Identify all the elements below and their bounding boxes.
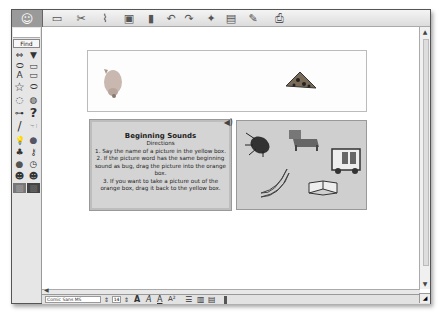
field-icon[interactable]: ▭ <box>27 70 40 80</box>
pig-picture[interactable] <box>100 65 126 99</box>
direction-step: 1. Say the name of a picture in the yell… <box>92 148 229 156</box>
paint-bucket-icon[interactable]: ▣ <box>120 11 138 25</box>
superscript-button[interactable]: A² <box>168 295 176 304</box>
question-icon[interactable]: ? <box>27 107 40 117</box>
connector-icon[interactable]: ⊶ <box>13 108 26 118</box>
directions-box[interactable]: ◀) Beginning Sounds Directions 1. Say th… <box>90 120 231 210</box>
directions-subtitle: Directions <box>92 140 229 148</box>
app-window: ☺ ▭ ✂ ⌇ ▣ ▮ ↶ ↷ ✦ ▤ ✎ ⎙ Find ⇔ ▼ ⬭ ▭ A ▭… <box>11 9 431 304</box>
photo-dark-icon[interactable]: ▩ <box>27 183 40 193</box>
scroll-down-icon[interactable]: ▼ <box>421 280 429 288</box>
vertical-scrollbar[interactable]: ▲ ▼ <box>419 27 430 289</box>
speech-bubble-icon[interactable]: ◌ <box>13 95 26 105</box>
hand-icon[interactable]: ☜ <box>27 121 40 131</box>
orange-box[interactable] <box>236 120 367 210</box>
yellow-box[interactable] <box>87 50 367 112</box>
photo-icon[interactable]: ▩ <box>13 183 26 193</box>
tool-palette: Find ⇔ ▼ ⬭ ▭ A ▭ ☆ ⬭ ◌ ◍ ⊶ ? / ☜ 💡 ● ♣ ⚷… <box>12 27 42 303</box>
toolbar: ☺ ▭ ✂ ⌇ ▣ ▮ ↶ ↷ ✦ ▤ ✎ ⎙ <box>12 10 430 27</box>
speaker-icon[interactable]: ◀) <box>224 118 233 127</box>
italic-button[interactable]: A <box>146 295 151 304</box>
undo-icon[interactable]: ↶ <box>162 11 180 25</box>
eraser-icon[interactable]: ▮ <box>142 11 160 25</box>
app-logo-icon[interactable]: ☺ <box>12 10 43 27</box>
cloud-icon[interactable]: ⬭ <box>27 82 40 92</box>
arrows-icon[interactable]: ⇔ <box>13 50 26 60</box>
page-canvas[interactable]: ◀) Beginning Sounds Directions 1. Say th… <box>42 27 420 289</box>
find-button[interactable]: Find <box>13 39 40 48</box>
pencil-tool-icon[interactable]: / <box>13 121 26 131</box>
tree-icon[interactable]: ♣ <box>13 147 26 157</box>
globe-icon[interactable]: ● <box>27 135 40 145</box>
scroll-left-icon[interactable]: ◀ <box>44 286 49 293</box>
boy-icon[interactable]: ☻ <box>13 171 26 181</box>
underline-button[interactable]: A <box>157 295 162 304</box>
bananas-picture[interactable] <box>257 165 293 201</box>
spacing-icon[interactable]: ▤ <box>208 295 216 304</box>
cut-icon[interactable]: ✂ <box>72 11 90 25</box>
book-picture[interactable] <box>307 179 339 197</box>
lightbulb-icon[interactable]: 💡 <box>13 135 26 145</box>
magnet-icon[interactable]: ⌇ <box>96 11 114 25</box>
resize-handle[interactable]: ◢ <box>419 293 430 303</box>
text-icon[interactable]: A <box>13 70 26 80</box>
redo-icon[interactable]: ↷ <box>180 11 198 25</box>
bug-icon[interactable]: ✦ <box>202 11 220 25</box>
bed-picture[interactable] <box>287 127 321 153</box>
size-stepper-icon[interactable]: ⇕ <box>123 295 130 304</box>
page-link-icon[interactable]: ▤ <box>222 11 240 25</box>
star-icon[interactable]: ☆ <box>13 82 26 92</box>
divider <box>224 296 227 304</box>
bug-picture[interactable] <box>243 127 275 159</box>
direction-step: 3. If you want to take a picture out of … <box>92 178 229 193</box>
print-icon[interactable]: ⎙ <box>270 11 288 25</box>
palette-header <box>13 28 40 38</box>
pizza-picture[interactable] <box>284 70 318 92</box>
align-icon[interactable]: ☰ <box>185 295 192 304</box>
dropdown-icon[interactable]: ▼ <box>27 50 40 60</box>
bus-picture[interactable] <box>329 146 363 176</box>
apple-icon[interactable]: ● <box>13 159 26 169</box>
font-stepper-icon[interactable]: ⇕ <box>103 295 110 304</box>
font-size-field[interactable]: 14 <box>112 296 121 303</box>
font-select[interactable]: Comic Sans MS <box>45 296 101 303</box>
columns-icon[interactable]: ▥ <box>197 295 205 304</box>
thought-bubble-icon[interactable]: ◍ <box>27 95 40 105</box>
direction-step: 2. If the picture word has the same begi… <box>92 155 229 178</box>
bold-button[interactable]: A <box>134 295 140 304</box>
key-icon[interactable]: ⚷ <box>27 147 40 157</box>
girl-icon[interactable]: ☻ <box>27 171 40 181</box>
clock-icon[interactable]: ◷ <box>27 159 40 169</box>
directions-title: Beginning Sounds <box>92 132 229 140</box>
pencil-icon[interactable]: ✎ <box>244 11 262 25</box>
scroll-up-icon[interactable]: ▲ <box>421 28 429 36</box>
format-bar: Comic Sans MS ⇕ 14 ⇕ A A A A² ☰ ▥ ▤ <box>42 294 430 304</box>
background-icon[interactable]: ▭ <box>48 11 66 25</box>
scroll-track[interactable] <box>423 39 429 266</box>
